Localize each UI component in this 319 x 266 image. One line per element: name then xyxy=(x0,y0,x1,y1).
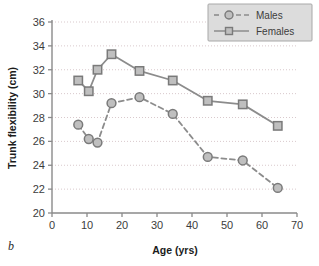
x-tick-label-30: 30 xyxy=(151,219,163,231)
datapoint-males-54.5-24.4 xyxy=(238,156,247,165)
datapoint-males-13-25.9 xyxy=(93,138,102,147)
x-tick-label-50: 50 xyxy=(221,219,233,231)
y-tick-label-28: 28 xyxy=(33,112,45,124)
chart-legend: Males Females xyxy=(208,4,312,41)
figure-panel-b: 010203040506070 202224262830323436 Age (… xyxy=(0,0,319,266)
x-tick-label-10: 10 xyxy=(81,219,93,231)
legend-females-square-marker xyxy=(226,28,233,35)
x-tick-label-0: 0 xyxy=(49,219,55,231)
datapoint-males-34.5-28.3 xyxy=(168,110,177,119)
x-tick-label-20: 20 xyxy=(116,219,128,231)
datapoint-females-54.5-29.1 xyxy=(239,100,247,108)
panel-label: b xyxy=(8,239,14,253)
y-tick-label-24: 24 xyxy=(33,159,45,171)
datapoint-males-64.5-22.1 xyxy=(273,184,282,193)
datapoint-males-44.5-24.7 xyxy=(203,152,212,161)
datapoint-females-17-33.3 xyxy=(107,50,115,58)
y-tick-label-36: 36 xyxy=(33,16,45,28)
datapoint-males-25-29.7 xyxy=(135,93,144,102)
y-tick-label-20: 20 xyxy=(33,207,45,219)
legend-label-females: Females xyxy=(256,26,294,37)
x-tick-label-60: 60 xyxy=(256,219,268,231)
datapoint-females-44.5-29.4 xyxy=(204,97,212,105)
datapoint-males-17-29.2 xyxy=(107,99,116,108)
y-tick-label-32: 32 xyxy=(33,64,45,76)
y-axis-tick-labels: 202224262830323436 xyxy=(33,16,45,219)
datapoint-males-10.5-26.2 xyxy=(84,135,93,144)
datapoint-females-13-32 xyxy=(93,66,101,74)
datapoint-females-34.5-31.1 xyxy=(169,76,177,84)
y-tick-label-34: 34 xyxy=(33,40,45,52)
y-tick-label-22: 22 xyxy=(33,183,45,195)
trunk-flexibility-line-chart: 010203040506070 202224262830323436 Age (… xyxy=(0,0,319,266)
x-tick-label-40: 40 xyxy=(186,219,198,231)
x-tick-label-70: 70 xyxy=(291,219,303,231)
datapoint-females-25-31.9 xyxy=(135,67,143,75)
y-tick-label-26: 26 xyxy=(33,135,45,147)
y-tick-label-30: 30 xyxy=(33,88,45,100)
legend-males-circle-marker xyxy=(225,11,233,19)
datapoint-females-10.5-30.2 xyxy=(85,87,93,95)
x-axis-title: Age (yrs) xyxy=(152,244,198,256)
datapoint-females-64.5-27.3 xyxy=(274,122,282,130)
y-axis-title: Trunk flexibility (cm) xyxy=(6,67,18,169)
datapoint-females-7.5-31.1 xyxy=(74,76,82,84)
legend-label-males: Males xyxy=(256,10,283,21)
datapoint-males-7.5-27.4 xyxy=(74,120,83,129)
